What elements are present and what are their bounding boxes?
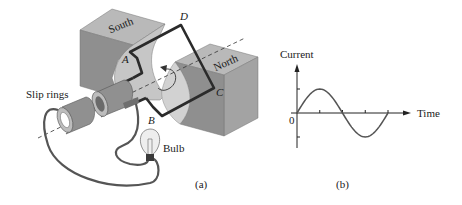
- generator-figure: South North A D C B: [0, 0, 462, 205]
- x-axis-arrow-icon: [403, 111, 411, 116]
- caption-b: (b): [336, 178, 349, 191]
- corner-c-label: C: [216, 86, 224, 98]
- bulb-icon: [140, 129, 159, 161]
- y-axis-label: Current: [280, 48, 314, 60]
- rotation-arrow-head-icon: [160, 65, 167, 72]
- slip-rings-label: Slip rings: [26, 88, 68, 100]
- corner-b-label: B: [148, 114, 155, 126]
- bulb-base: [146, 154, 154, 161]
- figure-a: South North A D C B: [26, 9, 258, 191]
- y-axis-arrow-icon: [295, 64, 300, 72]
- bulb-glass: [140, 129, 159, 155]
- bulb-label: Bulb: [163, 142, 185, 154]
- caption-a: (a): [195, 178, 208, 191]
- x-axis-label: Time: [417, 107, 440, 119]
- figure-b-graph: Current Time 0 (b): [280, 48, 440, 191]
- corner-a-label: A: [121, 53, 129, 65]
- origin-label: 0: [289, 114, 295, 126]
- corner-d-label: D: [179, 10, 188, 22]
